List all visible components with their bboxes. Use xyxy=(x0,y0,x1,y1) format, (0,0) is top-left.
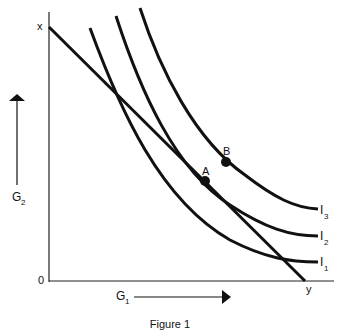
point-b-label: B xyxy=(223,145,230,157)
budget-end-label: y xyxy=(306,283,312,295)
svg-text:G: G xyxy=(12,190,21,204)
svg-text:I: I xyxy=(320,203,323,217)
point-a-label: A xyxy=(202,165,210,177)
indifference-curve-diagram: x y 0 A B I 3 I 2 I 1 G 2 G 1 Figure 1 xyxy=(0,0,341,332)
x-axis-label: G 1 xyxy=(116,289,130,306)
svg-text:1: 1 xyxy=(125,297,130,306)
svg-text:I: I xyxy=(320,255,323,269)
svg-text:1: 1 xyxy=(324,264,329,273)
curve-label-i3: I 3 xyxy=(320,203,329,221)
figure-caption: Figure 1 xyxy=(150,318,190,330)
svg-text:2: 2 xyxy=(21,198,26,207)
point-b-marker xyxy=(221,157,231,167)
svg-text:2: 2 xyxy=(324,238,329,247)
indifference-curve-i1 xyxy=(90,28,318,262)
budget-line xyxy=(49,27,305,281)
curve-label-i2: I 2 xyxy=(320,229,329,247)
svg-text:I: I xyxy=(320,229,323,243)
indifference-curve-i3 xyxy=(140,8,318,209)
svg-text:G: G xyxy=(116,289,125,303)
point-a-marker xyxy=(200,176,210,186)
arrow-up-icon xyxy=(9,94,25,101)
svg-text:3: 3 xyxy=(324,212,329,221)
arrow-right-icon xyxy=(222,290,231,304)
curve-label-i1: I 1 xyxy=(320,255,329,273)
y-axis-label: G 2 xyxy=(12,190,26,207)
budget-start-label: x xyxy=(37,20,43,32)
origin-label: 0 xyxy=(38,274,44,286)
